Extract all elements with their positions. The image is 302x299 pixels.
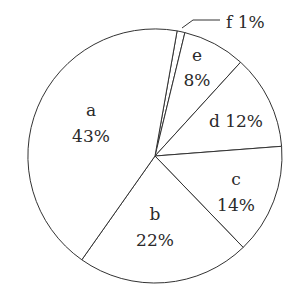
slice-label-e-pct: 8% [184,70,211,90]
slice-label-c-name: c [231,169,241,189]
slice-label-e-name: e [192,45,202,65]
slice-label-c-pct: 14% [217,195,255,215]
slice-label-d: d 12% [209,111,263,131]
slice-label-f: f 1% [226,12,265,32]
slice-label-b-pct: 22% [136,230,174,250]
slice-label-a-name: a [86,100,96,120]
slice-label-b-name: b [150,204,161,224]
f-leader-line [182,20,193,28]
pie-chart: a 43% b 22% c 14% d 12% e 8% f 1% [0,0,302,299]
slice-label-a-pct: 43% [72,126,110,146]
